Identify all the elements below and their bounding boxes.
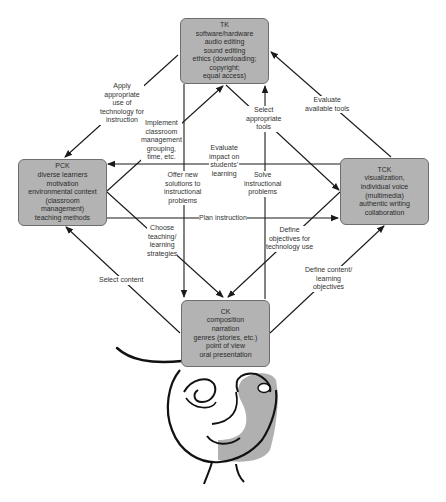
label-line: management — [141, 136, 182, 145]
node-ck-line: composition — [207, 316, 244, 325]
label-line: impact on — [209, 153, 239, 162]
label-line: problems — [164, 197, 201, 206]
label-line: classroom — [141, 128, 182, 137]
node-pck-title: PCK — [55, 162, 69, 171]
node-tck-title: TCK — [378, 166, 392, 175]
node-pck-line: motivation — [47, 180, 79, 189]
label-line: Define content/ — [305, 266, 352, 275]
label-line: teaching/ — [147, 233, 177, 242]
label-select-tools: Select appropriate tools — [246, 106, 281, 132]
label-implement: Implement classroom management grouping,… — [141, 119, 182, 162]
label-line: learning — [209, 170, 239, 179]
label-line: time, etc. — [141, 153, 182, 162]
label-plan: Plan instruction — [199, 214, 247, 223]
label-line: technology use — [266, 243, 313, 252]
node-tk: TK software/hardware audio editing sound… — [180, 18, 269, 84]
node-ck-title: CK — [221, 308, 231, 317]
label-line: instruction — [100, 116, 144, 125]
label-line: instructional — [244, 180, 281, 189]
label-offer: Offer new solutions to instructional pro… — [164, 171, 201, 205]
node-pck: PCK diverse learners motivation environm… — [18, 159, 107, 226]
node-ck-line: genres (stories, etc.) — [194, 334, 258, 343]
face-illustration — [117, 348, 278, 484]
label-line: Apply — [100, 82, 144, 91]
label-line: appropriate — [100, 91, 144, 100]
label-define-tech: Define objectives for technology use — [266, 226, 313, 252]
label-line: objectives — [305, 283, 352, 292]
label-choose: Choose teaching/ learning strategies — [147, 224, 177, 258]
label-line: available tools — [305, 105, 349, 114]
node-ck: CK composition narration genres (stories… — [181, 300, 270, 367]
node-tck-line: individual voice — [361, 183, 408, 192]
label-line: Solve — [244, 171, 281, 180]
label-line: objectives for — [266, 235, 313, 244]
label-line: learning — [147, 241, 177, 250]
label-line: learning — [305, 275, 352, 284]
node-tk-line: audio editing — [205, 38, 245, 47]
label-line: Evaluate — [305, 96, 349, 105]
label-line: grouping, — [141, 145, 182, 154]
node-tck-line: (multimedia) — [365, 192, 404, 201]
label-line: Offer new — [164, 171, 201, 180]
label-line: use of — [100, 99, 144, 108]
label-line: Choose — [147, 224, 177, 233]
label-line: students' — [209, 161, 239, 170]
node-tck-line: authentic writing — [359, 200, 410, 209]
label-line: problems — [244, 188, 281, 197]
label-line: instructional — [164, 188, 201, 197]
node-ck-line: oral presentation — [199, 351, 251, 360]
label-define-content: Define content/ learning objectives — [305, 266, 352, 292]
label-solve: Solve instructional problems — [244, 171, 281, 197]
label-line: technology for — [100, 108, 144, 117]
label-line: Define — [266, 226, 313, 235]
label-line: strategies — [147, 250, 177, 259]
node-pck-line: management) — [41, 205, 84, 214]
node-tck: TCK visualization, individual voice (mul… — [340, 158, 429, 225]
label-line: Evaluate — [209, 144, 239, 153]
node-pck-line: teaching methods — [35, 214, 90, 223]
node-tck-line: visualization, — [364, 174, 404, 183]
node-pck-line: diverse learners — [38, 171, 88, 180]
label-evaluate-impact: Evaluate impact on students' learning — [209, 144, 239, 178]
label-line: Select — [246, 106, 281, 115]
label-apply: Apply appropriate use of technology for … — [100, 82, 144, 125]
label-line: Plan instruction — [199, 214, 247, 223]
node-tk-title: TK — [220, 21, 229, 30]
node-tk-line: copyright; — [209, 64, 239, 73]
node-tk-line: ethics (downloading; — [193, 55, 257, 64]
label-line: appropriate — [246, 115, 281, 124]
node-tk-line: sound editing — [204, 47, 246, 56]
label-line: Implement — [141, 119, 182, 128]
label-line: tools — [246, 123, 281, 132]
label-select-content: Select content — [99, 276, 143, 285]
node-ck-line: narration — [212, 325, 240, 334]
label-line: solutions to — [164, 180, 201, 189]
label-line: Select content — [99, 276, 143, 285]
node-tk-line: software/hardware — [196, 30, 254, 39]
node-tk-line: equal access) — [203, 72, 246, 81]
node-pck-line: environmental context — [28, 188, 96, 197]
label-evaluate-tools: Evaluate available tools — [305, 96, 349, 113]
node-ck-line: point of view — [206, 342, 245, 351]
node-tck-line: collaboration — [365, 209, 405, 218]
node-pck-line: (classroom — [45, 197, 79, 206]
